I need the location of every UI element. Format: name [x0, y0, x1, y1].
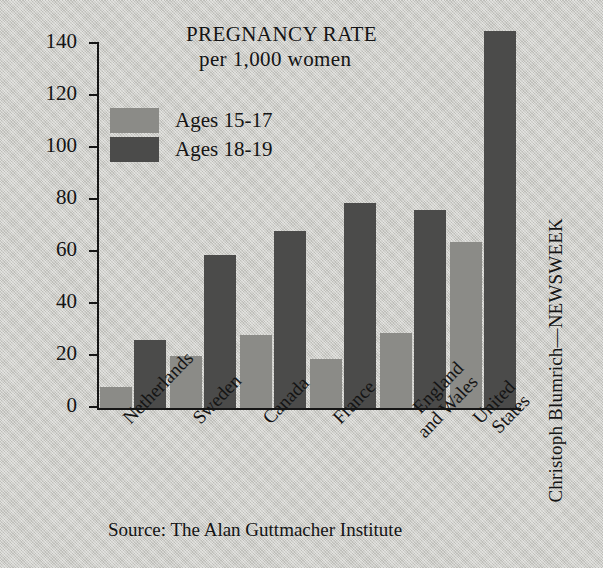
- bar-group-container: [98, 44, 518, 408]
- y-tick-80: 80: [89, 198, 98, 200]
- y-tick-label-0: 0: [67, 395, 78, 416]
- y-tick-100: 100: [89, 146, 98, 148]
- y-tick-label-80: 80: [56, 187, 77, 208]
- y-tick-label-140: 140: [46, 31, 78, 52]
- y-tick-120: 120: [89, 94, 98, 96]
- chart-source: Source: The Alan Guttmacher Institute: [108, 519, 402, 541]
- y-tick-label-100: 100: [46, 135, 78, 156]
- bar-france-ages-15-17: [310, 359, 342, 408]
- y-tick-label-40: 40: [56, 291, 77, 312]
- y-tick-60: 60: [89, 250, 98, 252]
- bar-england-and-wales-ages-15-17: [380, 333, 412, 408]
- y-tick-20: 20: [89, 354, 98, 356]
- bar-france-ages-18-19: [344, 203, 376, 408]
- plot-area: 140120100806040200: [98, 44, 518, 408]
- bar-canada-ages-15-17: [240, 335, 272, 408]
- chart-credit: Christoph Blumrich—NEWSWEEK: [545, 218, 567, 503]
- bar-united-states-ages-18-19: [484, 31, 516, 408]
- y-tick-140: 140: [89, 42, 98, 44]
- y-tick-0: 0: [89, 406, 98, 408]
- y-tick-label-20: 20: [56, 343, 77, 364]
- y-tick-40: 40: [89, 302, 98, 304]
- y-tick-label-60: 60: [56, 239, 77, 260]
- y-tick-label-120: 120: [46, 83, 78, 104]
